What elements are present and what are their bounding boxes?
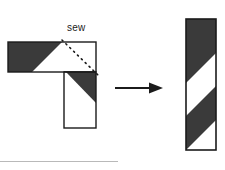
- vertical-arm: [64, 72, 96, 128]
- diagram-canvas: [0, 0, 225, 170]
- transformation-arrow: [115, 83, 163, 94]
- left-l-shape: [8, 40, 99, 128]
- horizontal-arm: [8, 42, 96, 72]
- sewing-diagram-figure: sew: [0, 0, 225, 170]
- sew-label: sew: [67, 22, 85, 33]
- finished-striped-strip: [186, 19, 216, 150]
- arrow-head-icon: [149, 83, 163, 94]
